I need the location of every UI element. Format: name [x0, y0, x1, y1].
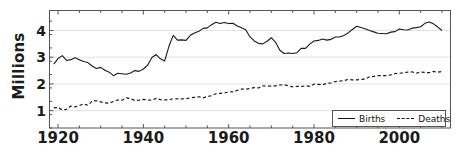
legend-line-solid-icon [338, 115, 355, 123]
series-line-deaths [54, 71, 442, 110]
legend-line-dashed-icon [397, 115, 414, 123]
chart-legend: Births Deaths [332, 110, 446, 127]
births-deaths-line-chart: Millions 1234 19201940196019802000 Birth… [0, 0, 464, 158]
legend-entry-deaths: Deaths [397, 111, 450, 126]
legend-entry-births: Births [338, 111, 385, 126]
plot-canvas [0, 0, 464, 158]
gridlines [50, 31, 451, 111]
legend-label-deaths: Deaths [418, 114, 450, 124]
legend-label-births: Births [359, 114, 385, 124]
